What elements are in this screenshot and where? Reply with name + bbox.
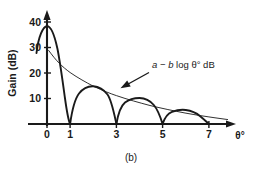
x-tick-labels: 0 1 3 5 7 (44, 128, 212, 140)
sidelobe-1-curve (70, 86, 116, 124)
figure-container: 40 30 20 10 0 1 3 5 7 θ° Gain (dB) (0, 0, 262, 170)
x-axis-label: θ° (235, 130, 244, 141)
y-tick-label-40: 40 (29, 16, 41, 28)
sidelobe-2-curve (116, 98, 162, 124)
antenna-gain-chart: 40 30 20 10 0 1 3 5 7 θ° Gain (dB) (0, 0, 262, 170)
y-axis-label: Gain (dB) (6, 49, 18, 96)
y-tick-label-10: 10 (29, 92, 41, 104)
y-tick-labels: 40 30 20 10 (29, 16, 41, 105)
x-tick-label-3: 3 (113, 128, 119, 140)
main-lobe-curve (37, 26, 71, 124)
y-tick-label-20: 20 (29, 67, 41, 79)
x-tick-label-5: 5 (160, 128, 166, 140)
annotation-arrow (121, 73, 150, 89)
sidelobe-3-curve (163, 110, 209, 124)
x-tick-label-7: 7 (206, 128, 212, 140)
x-tick-label-1: 1 (67, 128, 73, 140)
x-tick-label-0: 0 (44, 128, 50, 140)
figure-caption: (b) (125, 152, 137, 163)
y-tick-label-30: 30 (29, 41, 41, 53)
annotation-rest: log θ° dB (176, 59, 215, 70)
envelope-annotation-label: a − b log θ° dB (152, 59, 215, 70)
